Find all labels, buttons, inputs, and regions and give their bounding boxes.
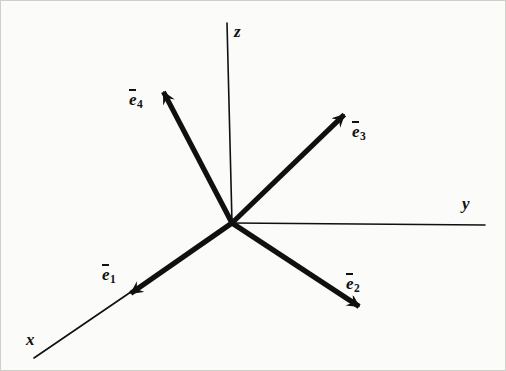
- vector-label-e3: e3: [352, 121, 366, 143]
- axis-label-y: y: [462, 194, 470, 214]
- vector-label-e4-subscript: 4: [137, 98, 143, 110]
- axis-label-x: x: [26, 330, 35, 350]
- vector-label-e2-base: e: [346, 273, 354, 292]
- vector-diagram-svg: [1, 1, 506, 371]
- vector-arrow-e2: [232, 223, 359, 306]
- axes-group: [34, 23, 485, 358]
- vector-label-e2-subscript: 2: [354, 282, 360, 294]
- figure-canvas: z y x e1 e2 e3 e4: [0, 0, 506, 371]
- vectors-group: [131, 92, 359, 307]
- axis-line-z: [227, 23, 232, 223]
- vector-label-e4-base: e: [129, 89, 137, 108]
- vector-label-e3-base: e: [352, 121, 360, 140]
- vector-label-e1-subscript: 1: [110, 273, 116, 285]
- vector-label-e1-base: e: [102, 264, 110, 283]
- vector-label-e1: e1: [102, 264, 116, 286]
- vector-arrow-e4: [163, 92, 232, 223]
- vector-label-e3-subscript: 3: [360, 130, 366, 142]
- vector-arrow-e3: [232, 115, 344, 223]
- vector-label-e2: e2: [346, 273, 360, 295]
- axis-line-y: [232, 223, 485, 225]
- vector-arrow-e1: [131, 223, 232, 293]
- vector-label-e4: e4: [129, 89, 143, 111]
- axis-label-z: z: [234, 22, 241, 42]
